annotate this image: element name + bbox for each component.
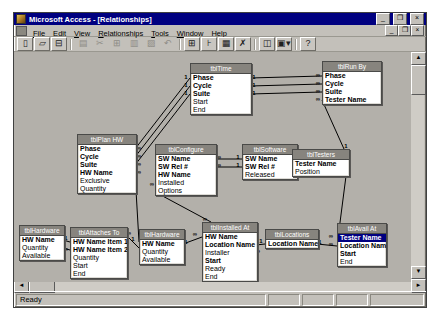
table-tblconfigure[interactable]: tblConfigureSW NameSW Rel #HW NameInstal… xyxy=(155,144,217,196)
vertical-scrollbar[interactable]: ▲ ▼ xyxy=(411,52,424,279)
field-row[interactable]: Phase xyxy=(323,72,381,80)
field-row[interactable]: Quantity xyxy=(71,254,127,262)
field-row[interactable]: Suite xyxy=(191,90,251,98)
scroll-down-button[interactable]: ▼ xyxy=(411,266,426,279)
open-database-button[interactable]: ▱ xyxy=(34,37,50,51)
table-title[interactable]: tblHardware xyxy=(140,230,184,240)
office-assistant-button[interactable]: ? xyxy=(300,37,316,51)
mdi-minimize-button[interactable]: _ xyxy=(385,25,398,36)
field-row[interactable]: HW Name xyxy=(156,171,216,179)
vertical-scroll-thumb[interactable] xyxy=(411,65,426,95)
field-row[interactable]: End xyxy=(338,258,386,266)
field-row[interactable]: Start xyxy=(338,250,386,258)
field-row[interactable]: Options xyxy=(156,187,216,195)
table-title[interactable]: tblConfigure xyxy=(156,145,216,155)
field-row[interactable]: HW Name xyxy=(203,233,257,241)
field-row[interactable]: Cycle xyxy=(191,82,251,90)
table-title[interactable]: tblAvail At xyxy=(338,224,386,234)
field-row[interactable]: Location Name xyxy=(338,242,386,250)
field-row[interactable]: Phase xyxy=(191,74,251,82)
field-row[interactable]: Start xyxy=(191,98,251,106)
field-row[interactable]: End xyxy=(191,106,251,114)
field-row[interactable]: HW Name Item 1 xyxy=(71,238,127,246)
table-tbllocations[interactable]: tblLocationsLocation Name xyxy=(265,229,319,249)
field-row[interactable]: HW Name xyxy=(20,236,64,244)
field-row[interactable]: Installed xyxy=(156,179,216,187)
field-row[interactable]: Available xyxy=(140,256,184,264)
field-row[interactable]: Cycle xyxy=(78,153,136,161)
table-title[interactable]: tblSoftware xyxy=(243,145,297,155)
field-row[interactable]: SW Name xyxy=(156,155,216,163)
field-row[interactable]: Tester Name xyxy=(338,234,386,242)
field-row[interactable]: Exclusive xyxy=(78,177,136,185)
show-direct-relationships-button[interactable]: ⊦ xyxy=(201,37,217,51)
show-table-button[interactable]: ⊞ xyxy=(184,37,200,51)
field-row[interactable]: End xyxy=(203,273,257,281)
field-row[interactable]: End xyxy=(71,270,127,278)
table-title[interactable]: tblTime xyxy=(191,64,251,74)
table-tblplan-hw[interactable]: tblPlan HWPhaseCycleSuiteHW NameExclusiv… xyxy=(77,134,137,194)
field-row[interactable]: Quantity xyxy=(140,248,184,256)
scroll-up-button[interactable]: ▲ xyxy=(411,52,426,65)
mdi-close-button[interactable]: × xyxy=(411,25,424,36)
field-row[interactable]: Quantity xyxy=(20,244,64,252)
field-row[interactable]: SW Name xyxy=(243,155,297,163)
table-tblsoftware[interactable]: tblSoftwareSW NameSW Rel #Released xyxy=(242,144,298,180)
table-tblhardware[interactable]: tblHardwareHW NameQuantityAvailable xyxy=(19,225,65,261)
new-database-button[interactable]: ▯ xyxy=(17,37,33,51)
field-row[interactable]: Location Name xyxy=(203,241,257,249)
new-object-button[interactable]: ▣▾ xyxy=(276,37,292,51)
field-row[interactable]: HW Name xyxy=(140,240,184,248)
field-row[interactable]: Location Name xyxy=(266,240,318,248)
relationship-line[interactable] xyxy=(250,92,322,94)
table-tblrun-by[interactable]: tblRun ByPhaseCycleSuiteTester Name xyxy=(322,61,382,105)
field-row[interactable]: Available xyxy=(20,252,64,260)
field-row[interactable]: HW Name xyxy=(78,169,136,177)
table-title[interactable]: tblPlan HW xyxy=(78,135,136,145)
mdi-restore-button[interactable]: ❐ xyxy=(398,25,411,36)
table-tblinstalled-at[interactable]: tblInstalled AtHW NameLocation NameInsta… xyxy=(202,222,258,282)
field-row[interactable]: Suite xyxy=(323,88,381,96)
database-window-button[interactable]: ◫ xyxy=(259,37,275,51)
restore-button[interactable]: ❐ xyxy=(393,13,407,25)
table-title[interactable]: tblTesters xyxy=(293,150,349,160)
field-row[interactable]: Start xyxy=(71,262,127,270)
table-tblhardware[interactable]: tblHardwareHW NameQuantityAvailable xyxy=(139,229,185,265)
field-row[interactable]: Quantity xyxy=(78,185,136,193)
show-all-relationships-button[interactable]: ▦ xyxy=(218,37,234,51)
field-row[interactable]: Suite xyxy=(78,161,136,169)
table-title[interactable]: tblAttaches To xyxy=(71,228,127,238)
paste-button: ▥ xyxy=(126,37,142,51)
table-title[interactable]: tblRun By xyxy=(323,62,381,72)
relationships-canvas[interactable]: 1∞1∞1∞1∞1∞1∞∞1∞1∞1∞1∞∞1∞∞1∞∞11∞∞ tblTime… xyxy=(14,52,411,282)
table-title[interactable]: tblLocations xyxy=(266,230,318,240)
save-button[interactable]: ⊟ xyxy=(51,37,67,51)
field-row[interactable]: HW Name Item 2 xyxy=(71,246,127,254)
field-row[interactable]: Released xyxy=(243,171,297,179)
field-row[interactable]: Position xyxy=(293,168,349,176)
table-title[interactable]: tblInstalled At xyxy=(203,223,257,233)
table-tblattaches-to[interactable]: tblAttaches ToHW Name Item 1HW Name Item… xyxy=(70,227,128,279)
field-row[interactable]: Cycle xyxy=(323,80,381,88)
field-row[interactable]: Tester Name xyxy=(323,96,381,104)
field-row[interactable]: Installer xyxy=(203,249,257,257)
minimize-button[interactable]: _ xyxy=(376,13,390,25)
relationship-line[interactable] xyxy=(322,100,344,149)
close-button[interactable]: × xyxy=(410,13,424,25)
relationship-line[interactable] xyxy=(250,84,322,86)
format-painter-button: ▨ xyxy=(143,37,159,51)
table-tblavail-at[interactable]: tblAvail AtTester NameLocation NameStart… xyxy=(337,223,387,267)
table-tbltesters[interactable]: tblTestersTester NamePosition xyxy=(292,149,350,177)
relationship-line[interactable] xyxy=(135,78,190,149)
field-row[interactable]: Phase xyxy=(78,145,136,153)
clear-layout-button[interactable]: ✗ xyxy=(235,37,251,51)
field-row[interactable]: SW Rel # xyxy=(243,163,297,171)
field-row[interactable]: Ready xyxy=(203,265,257,273)
field-row[interactable]: Start xyxy=(203,257,257,265)
field-row[interactable]: SW Rel # xyxy=(156,163,216,171)
table-title[interactable]: tblHardware xyxy=(20,226,64,236)
field-row[interactable]: Tester Name xyxy=(293,160,349,168)
table-tbltime[interactable]: tblTimePhaseCycleSuiteStartEnd xyxy=(190,63,252,115)
relationship-line[interactable] xyxy=(250,76,322,78)
relationships-window-icon[interactable] xyxy=(16,26,27,36)
